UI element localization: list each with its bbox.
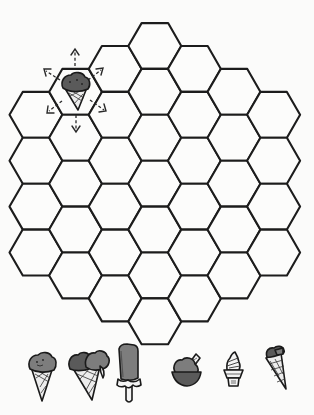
hex-grid <box>10 23 301 344</box>
sundae-bowl-with-wafer-icon <box>172 354 201 386</box>
arrow-up-left-head-icon <box>44 69 51 76</box>
tilted-cone-icon <box>266 346 286 389</box>
hex-game-board <box>0 0 314 415</box>
tray-item-chocolate-dipped-popsicle[interactable] <box>117 344 141 402</box>
tray-item-sundae-bowl-with-wafer[interactable] <box>172 354 201 386</box>
double-scoop-cone-icon <box>69 351 109 400</box>
chocolate-dipped-popsicle-icon <box>117 344 141 402</box>
soft-serve-cup-icon <box>224 352 243 386</box>
tray-item-soft-serve-cup[interactable] <box>224 352 243 386</box>
single-scoop-cone-icon <box>29 353 56 401</box>
tray-item-single-scoop-cone[interactable] <box>29 353 56 401</box>
tray-item-tilted-cone[interactable] <box>266 346 286 389</box>
tray-item-double-scoop-cone[interactable] <box>69 351 109 400</box>
pieces-tray <box>29 344 286 402</box>
